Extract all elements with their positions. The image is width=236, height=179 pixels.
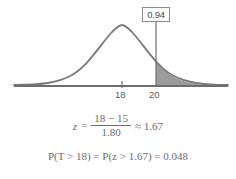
probability-statement: P(T > 18) = P(z > 1.67) = 0.048 bbox=[0, 150, 236, 162]
tick-label-18: 18 bbox=[115, 89, 126, 100]
tick-label-20: 20 bbox=[149, 89, 160, 100]
fraction-numerator: 18 − 15 bbox=[91, 113, 131, 125]
fraction: 18 − 15 1.80 bbox=[91, 113, 131, 138]
fraction-denominator: 1.80 bbox=[99, 126, 124, 138]
equals-sign: = bbox=[81, 119, 87, 131]
z-variable: z bbox=[73, 120, 77, 132]
bell-curve bbox=[14, 25, 228, 85]
math-block: z = 18 − 15 1.80 ≈ 1.67 P(T > 18) = P(z … bbox=[0, 108, 236, 162]
normal-distribution-figure: 0.94 18 20 z = 18 − 15 1.80 ≈ 1.67 P(T >… bbox=[0, 0, 236, 179]
shaded-tail-region bbox=[14, 26, 228, 86]
z-score-result: ≈ 1.67 bbox=[135, 120, 163, 132]
callout-value: 0.94 bbox=[147, 10, 165, 20]
callout-box-area-label: 0.94 bbox=[142, 7, 170, 22]
z-score-equation: z = 18 − 15 1.80 ≈ 1.67 bbox=[0, 108, 236, 142]
